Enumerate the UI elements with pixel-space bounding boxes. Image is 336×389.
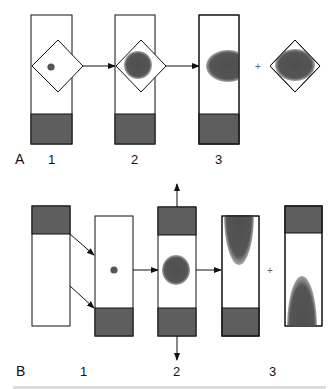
column-a3-dark-segment — [199, 114, 239, 144]
panel-b-step-3 — [222, 165, 259, 336]
dot-b1 — [110, 266, 117, 273]
plus-sign-b: + — [267, 265, 273, 276]
panel-b-step-3-label: 3 — [269, 365, 276, 378]
column-b2-bottom-dark-segment — [158, 308, 196, 336]
panel-b-source-column — [32, 206, 70, 326]
column-b0-dark-segment — [32, 206, 70, 234]
panel-a-label: A — [15, 152, 24, 166]
panel-a-step-1 — [31, 15, 83, 144]
diagram-canvas: + — [0, 0, 336, 389]
elongated-blob-b3 — [224, 165, 254, 265]
panel-a-step-2 — [115, 15, 166, 144]
panel-b-step-1 — [95, 216, 133, 336]
circle-b2 — [162, 255, 190, 285]
column-b2-top-dark-segment — [158, 207, 196, 235]
panel-b-label: B — [16, 364, 25, 378]
oval-a3 — [206, 50, 250, 82]
panel-a: + — [31, 15, 320, 144]
panel-b-step-1-label: 1 — [80, 365, 87, 378]
column-a2-dark-segment — [115, 114, 155, 144]
column-b1-dark-segment — [95, 308, 133, 336]
column-b-extra-dark-segment — [285, 206, 322, 233]
column-a1-dark-segment — [31, 114, 72, 144]
plus-sign-a: + — [255, 61, 261, 72]
oval-a-extra — [275, 49, 315, 81]
elongated-blob-b-extra — [287, 276, 317, 380]
panel-a-step-3 — [199, 15, 250, 144]
circle-a2 — [124, 51, 152, 79]
arrow-b0-b1-upper — [70, 234, 94, 255]
panel-a-step-2-label: 2 — [131, 153, 138, 166]
column-b3-dark-segment — [222, 308, 259, 336]
panel-b: + — [32, 165, 322, 380]
panel-b-step-2 — [158, 207, 196, 336]
panel-b-extra-column — [285, 206, 322, 380]
panel-a-extra-diamond — [270, 40, 320, 92]
panel-b-step-2-label: 2 — [173, 365, 180, 378]
panel-a-step-3-label: 3 — [215, 153, 222, 166]
panel-a-step-1-label: 1 — [48, 153, 55, 166]
dot-a1 — [47, 63, 54, 70]
arrow-b0-b1-lower — [70, 286, 94, 308]
